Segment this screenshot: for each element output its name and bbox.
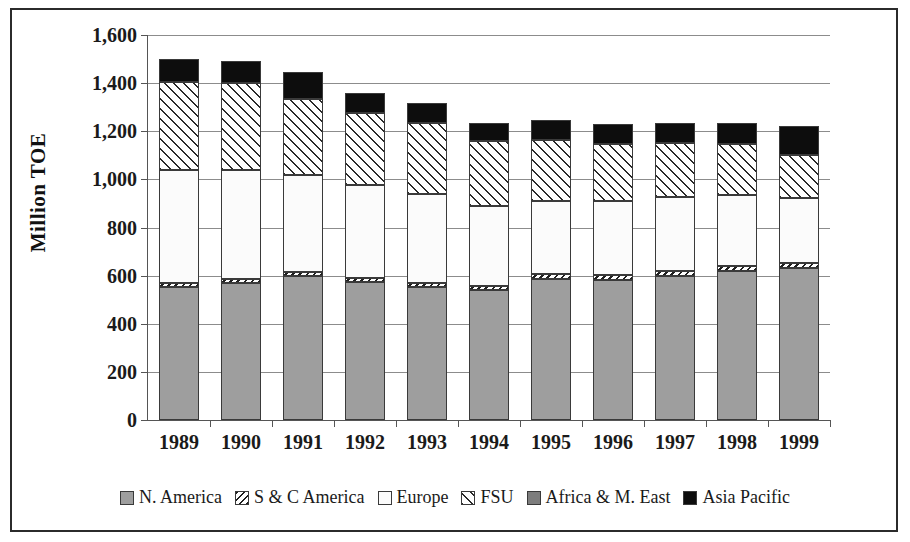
x-tick-label: 1996 <box>593 431 633 454</box>
bar-segment-europe <box>655 197 696 270</box>
bar-segment-s-c-america <box>779 263 820 269</box>
bar-segment-fsu <box>717 144 758 195</box>
bar-segment-asia-pacific <box>593 124 634 144</box>
bar-segment-s-c-america <box>655 271 696 276</box>
x-tick-label: 1999 <box>779 431 819 454</box>
bar-segment-s-c-america <box>593 275 634 280</box>
legend-swatch-icon <box>120 491 134 505</box>
bar-segment-n-america <box>469 290 510 420</box>
x-tick-mark <box>582 420 583 427</box>
y-tick-label: 1,400 <box>92 72 137 95</box>
bar-1989 <box>159 35 200 420</box>
bar-segment-fsu <box>283 99 324 175</box>
bar-segment-s-c-america <box>283 272 324 276</box>
bar-1998 <box>717 35 758 420</box>
bar-segment-fsu <box>407 123 448 194</box>
x-tick-mark <box>644 420 645 427</box>
x-tick-mark <box>272 420 273 427</box>
legend-item-n-america[interactable]: N. America <box>120 487 222 508</box>
bar-1995 <box>531 35 572 420</box>
x-tick-label: 1993 <box>407 431 447 454</box>
y-tick-mark <box>141 420 148 421</box>
legend-item-europe[interactable]: Europe <box>378 487 449 508</box>
y-tick-label: 0 <box>127 409 137 432</box>
bar-segment-s-c-america <box>531 274 572 278</box>
x-tick-label: 1989 <box>159 431 199 454</box>
bar-segment-asia-pacific <box>717 123 758 145</box>
bar-1991 <box>283 35 324 420</box>
bar-segment-asia-pacific <box>469 123 510 141</box>
bar-segment-s-c-america <box>407 283 448 287</box>
bar-segment-europe <box>159 170 200 283</box>
legend-label: Africa & M. East <box>546 487 671 508</box>
legend-swatch-icon <box>235 491 249 505</box>
y-tick-label: 800 <box>107 216 137 239</box>
chart-legend: N. AmericaS & C AmericaEuropeFSUAfrica &… <box>0 487 910 508</box>
y-tick-label: 1,200 <box>92 120 137 143</box>
y-tick-mark <box>141 276 148 277</box>
bar-segment-fsu <box>469 141 510 206</box>
bar-segment-s-c-america <box>159 283 200 287</box>
bar-1996 <box>593 35 634 420</box>
bar-segment-europe <box>469 206 510 285</box>
bar-segment-europe <box>407 194 448 283</box>
bar-segment-n-america <box>221 283 262 420</box>
legend-item-s-c-america[interactable]: S & C America <box>235 487 365 508</box>
bar-segment-europe <box>345 185 386 278</box>
bar-segment-s-c-america <box>717 266 758 271</box>
x-tick-mark <box>706 420 707 427</box>
y-tick-mark <box>141 372 148 373</box>
bar-segment-n-america <box>531 279 572 420</box>
bar-segment-asia-pacific <box>655 123 696 143</box>
bar-segment-n-america <box>283 276 324 420</box>
bar-segment-asia-pacific <box>531 120 572 139</box>
bar-segment-europe <box>221 170 262 279</box>
x-tick-label: 1991 <box>283 431 323 454</box>
legend-swatch-icon <box>378 491 392 505</box>
bar-segment-s-c-america <box>345 278 386 282</box>
x-tick-mark <box>458 420 459 427</box>
legend-item-fsu[interactable]: FSU <box>461 487 513 508</box>
bar-segment-asia-pacific <box>407 103 448 123</box>
x-tick-mark <box>396 420 397 427</box>
x-tick-label: 1990 <box>221 431 261 454</box>
y-tick-label: 1,000 <box>92 168 137 191</box>
plot-area: 1,6001,4001,2001,0008006004002000 198919… <box>147 35 830 421</box>
y-tick-label: 1,600 <box>92 24 137 47</box>
bar-segment-fsu <box>593 144 634 201</box>
legend-item-asia-pacific[interactable]: Asia Pacific <box>683 487 789 508</box>
bar-segment-n-america <box>159 287 200 420</box>
x-tick-mark <box>830 420 831 427</box>
y-tick-label: 600 <box>107 264 137 287</box>
bar-1994 <box>469 35 510 420</box>
bar-segment-n-america <box>655 276 696 420</box>
legend-label: S & C America <box>254 487 365 508</box>
y-tick-mark <box>141 35 148 36</box>
bar-segment-asia-pacific <box>221 61 262 83</box>
x-tick-mark <box>210 420 211 427</box>
x-tick-label: 1994 <box>469 431 509 454</box>
y-axis-title: Million TOE <box>26 93 51 293</box>
bar-segment-s-c-america <box>469 286 510 290</box>
legend-swatch-icon <box>461 491 475 505</box>
legend-swatch-icon <box>527 491 541 505</box>
y-tick-mark <box>141 83 148 84</box>
bar-1992 <box>345 35 386 420</box>
y-tick-label: 400 <box>107 312 137 335</box>
y-tick-mark <box>141 179 148 180</box>
legend-item-africa-m-east[interactable]: Africa & M. East <box>527 487 671 508</box>
bar-segment-fsu <box>655 143 696 197</box>
bar-segment-n-america <box>345 282 386 420</box>
bar-segment-fsu <box>159 82 200 170</box>
bar-segment-n-america <box>779 268 820 420</box>
x-tick-label: 1995 <box>531 431 571 454</box>
x-tick-label: 1998 <box>717 431 757 454</box>
bar-segment-asia-pacific <box>159 59 200 82</box>
bar-1997 <box>655 35 696 420</box>
bar-segment-s-c-america <box>221 279 262 283</box>
y-tick-mark <box>141 324 148 325</box>
bar-segment-europe <box>283 175 324 272</box>
bar-segment-europe <box>593 201 634 275</box>
bar-segment-europe <box>779 198 820 262</box>
bar-segment-asia-pacific <box>283 72 324 98</box>
